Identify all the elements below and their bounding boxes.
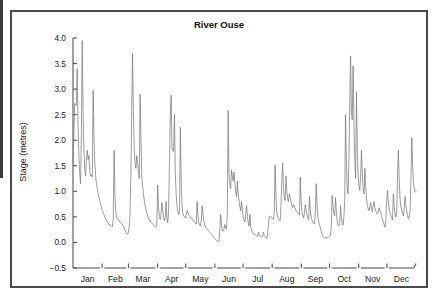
y-tick-label: 0.5 — [54, 212, 66, 222]
x-tick-label-apr: Apr — [165, 274, 179, 284]
y-tick-label: 2.0 — [54, 135, 66, 145]
x-tick-label-mar: Mar — [136, 274, 151, 284]
y-tick-label: 1.0 — [54, 186, 66, 196]
line-chart: River Ouse Stage (metres) 4.03.53.02.52.… — [12, 12, 426, 286]
page-edge-strip — [0, 0, 3, 178]
figure-root: River Ouse Stage (metres) 4.03.53.02.52.… — [0, 0, 441, 300]
y-axis-label: Stage (metres) — [18, 122, 28, 182]
x-tick-label-dec: Dec — [394, 274, 410, 284]
x-tick-label-jan: Jan — [81, 274, 95, 284]
y-tick-label: 4.0 — [54, 33, 66, 43]
x-axis: JanFebMarAprMayJunJulAugSepOctNovDec — [73, 264, 416, 285]
x-tick-label-feb: Feb — [108, 274, 123, 284]
x-tick-label-jun: Jun — [222, 274, 236, 284]
y-tick-label: 0.0 — [54, 237, 66, 247]
y-tick-label: 3.5 — [54, 59, 66, 69]
y-tick-label: 1.5 — [54, 161, 66, 171]
x-tick-label-may: May — [192, 274, 209, 284]
x-tick-label-nov: Nov — [365, 274, 381, 284]
y-axis: 4.03.53.02.52.01.51.00.50.0−0.5 — [50, 33, 77, 273]
plot-area: River Ouse Stage (metres) 4.03.53.02.52.… — [12, 12, 426, 286]
x-tick-label-aug: Aug — [279, 274, 295, 284]
x-tick-label-sep: Sep — [308, 274, 324, 284]
chart-title: River Ouse — [194, 19, 244, 30]
y-tick-label: 2.5 — [54, 110, 66, 120]
series-line-0 — [73, 41, 416, 242]
figure-frame: River Ouse Stage (metres) 4.03.53.02.52.… — [10, 10, 428, 288]
y-tick-label: 3.0 — [54, 84, 66, 94]
data-series-layer — [73, 41, 416, 242]
x-tick-label-oct: Oct — [337, 274, 351, 284]
x-tick-label-jul: Jul — [252, 274, 263, 284]
y-tick-label: −0.5 — [50, 263, 67, 273]
